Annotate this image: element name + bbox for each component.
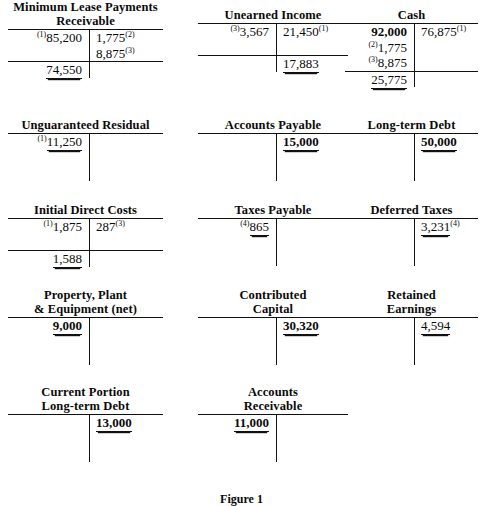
credit-column: 21,450(1)0 [276, 24, 348, 55]
debit-entry: 0 [8, 431, 82, 447]
entry-reference: (3) [125, 45, 134, 54]
credit-column: 287(3)0 [89, 219, 163, 250]
account-stem [276, 56, 277, 72]
balance-row: 25,7750 [345, 72, 478, 88]
amount: 13,000 [96, 415, 132, 432]
credit-entry: 1,775(2) [96, 30, 163, 46]
credit-entry: 21,450(1) [283, 24, 348, 40]
credit-entry: 13,000 [96, 415, 163, 431]
credit-entry: 287(3) [96, 219, 163, 235]
credit-entry: 0 [421, 150, 478, 166]
balance-row: 74,5500 [8, 62, 163, 78]
credit-entry: 0 [421, 55, 478, 71]
account-title: Minimum Lease Payments Receivable [8, 0, 163, 29]
account-stem [89, 219, 90, 250]
debit-entry: 0 [198, 235, 269, 251]
entry-reference: (3) [230, 24, 239, 33]
credit-entry: 0 [283, 334, 348, 350]
amount: 50,000 [421, 134, 457, 151]
entry-reference: (1) [319, 24, 328, 33]
debit-entry: 0 [8, 415, 82, 431]
debit-entry: 9,000 [8, 318, 82, 334]
debit-entry: 0 [8, 446, 82, 462]
account-title: Deferred Taxes [345, 203, 478, 218]
credit-entry: 0 [283, 165, 348, 181]
account-body: 0003,231(4)00 [345, 219, 478, 266]
credit-entry: 30,320 [283, 318, 348, 334]
debit-column: 000 [345, 318, 414, 365]
account-stem [89, 251, 90, 267]
t-account-property-plant-equipment-net: Property, Plant & Equipment (net)9,00000… [8, 288, 163, 365]
credit-column: 000 [89, 134, 163, 181]
account-title: Property, Plant & Equipment (net) [8, 288, 163, 317]
t-account-long-term-debt: Long-term Debt00050,00000 [345, 118, 478, 181]
account-title: Accounts Receivable [198, 385, 348, 414]
account-stem [276, 134, 277, 181]
t-account-retained-earnings: Retained Earnings0004,59400 [345, 288, 478, 365]
amount: 8,875 [378, 55, 407, 70]
entry-reference: (3) [116, 219, 125, 228]
account-title: Retained Earnings [345, 288, 478, 317]
entry-reference: (2) [125, 30, 134, 39]
account-title: Accounts Payable [198, 118, 348, 133]
credit-entry: 0 [283, 415, 348, 431]
debit-entry: 0 [198, 134, 269, 150]
credit-entry: 8,875(3) [96, 46, 163, 62]
credit-entry: 3,231(4) [421, 219, 478, 235]
amount: 76,875 [421, 24, 457, 39]
amount: 8,875 [96, 46, 125, 61]
account-body: 11,00000000 [198, 415, 348, 462]
credit-entry: 0 [96, 165, 163, 181]
credit-entry: 0 [96, 431, 163, 447]
credit-entry: 0 [96, 349, 163, 365]
account-stem [276, 219, 277, 266]
credit-entry: 0 [96, 318, 163, 334]
entry-reference: (1) [37, 134, 46, 143]
account-stem [89, 62, 90, 78]
amount: 3,567 [240, 24, 269, 39]
debit-column: 000 [345, 134, 414, 181]
t-account-current-portion-long-term-debt: Current Portion Long-term Debt00013,0000… [8, 385, 163, 462]
account-title: Unguaranteed Residual [8, 118, 163, 133]
entry-reference: (4) [240, 219, 249, 228]
debit-entry: 0 [8, 165, 82, 181]
debit-entry: 11,000 [198, 415, 269, 431]
debit-entry: 0 [8, 334, 82, 350]
credit-column: 13,00000 [89, 415, 163, 462]
credit-entry: 0 [283, 349, 348, 365]
figure-caption: Figure 1 [0, 493, 483, 506]
account-title: Long-term Debt [345, 118, 478, 133]
account-body: 00050,00000 [345, 134, 478, 181]
amount: 865 [250, 219, 270, 236]
account-stem [276, 415, 277, 462]
credit-entry: 0 [421, 334, 478, 350]
t-account-contributed-capital: Contributed Capital00030,32000 [198, 288, 348, 365]
credit-entry: 0 [421, 40, 478, 56]
credit-balance: 0 [89, 62, 163, 78]
debit-column: (1)1,8750 [8, 219, 89, 250]
t-account-accounts-payable: Accounts Payable00015,00000 [198, 118, 348, 181]
entry-reference: (1) [43, 219, 52, 228]
entry-reference: (2) [368, 39, 377, 48]
account-stem [414, 318, 415, 365]
account-body: 92,000(2)1,775(3)8,87576,875(1)00 [345, 24, 478, 71]
amount: 287 [96, 219, 116, 234]
account-body: 9,00000000 [8, 318, 163, 365]
debit-entry: 0 [345, 134, 407, 150]
entry-reference: (4) [450, 219, 459, 228]
credit-column: 15,00000 [276, 134, 348, 181]
t-account-unguaranteed-residual: Unguaranteed Residual(1)11,25000000 [8, 118, 163, 181]
debit-column: 11,00000 [198, 415, 276, 462]
credit-entry: 0 [96, 446, 163, 462]
credit-entry: 0 [96, 150, 163, 166]
credit-entry: 0 [421, 349, 478, 365]
account-title: Unearned Income [198, 8, 348, 23]
credit-entry: 0 [283, 235, 348, 251]
debit-entry: 0 [198, 446, 269, 462]
debit-balance: 74,550 [8, 62, 89, 78]
credit-entry: 76,875(1) [421, 24, 478, 40]
debit-entry: 0 [345, 150, 407, 166]
amount: 25,775 [371, 72, 407, 89]
debit-column: 9,00000 [8, 318, 89, 365]
account-title: Taxes Payable [198, 203, 348, 218]
